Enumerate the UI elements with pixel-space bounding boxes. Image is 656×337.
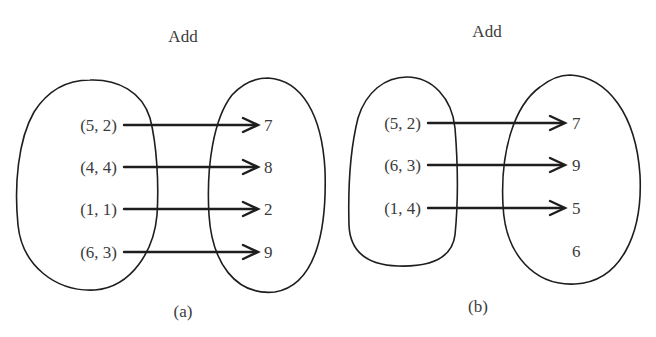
codomain-a-element-1: 7 xyxy=(264,117,273,134)
arrow-a-1 xyxy=(124,118,258,132)
codomain-a-element-3: 2 xyxy=(264,201,273,218)
domain-b-element-3: (1, 4) xyxy=(384,200,421,217)
domain-b-element-1: (5, 2) xyxy=(384,115,421,132)
arrow-b-1 xyxy=(428,116,565,130)
domain-a-element-1: (5, 2) xyxy=(80,117,117,134)
domain-a-element-4: (6, 3) xyxy=(80,244,117,261)
codomain-b-element-2: 9 xyxy=(572,157,581,174)
arrow-a-2 xyxy=(124,160,258,174)
domain-a-element-2: (4, 4) xyxy=(80,159,117,176)
arrow-b-2 xyxy=(428,158,565,172)
arrow-a-3 xyxy=(124,202,258,216)
codomain-b-element-3: 5 xyxy=(572,200,581,217)
codomain-b-element-4: 6 xyxy=(572,243,581,260)
diagram-b-title: Add xyxy=(472,23,501,40)
codomain-a-element-2: 8 xyxy=(264,159,273,176)
arrow-b-3 xyxy=(428,201,565,215)
diagram-a-title: Add xyxy=(168,28,197,45)
diagram-b-caption: (b) xyxy=(468,298,488,315)
domain-b-element-2: (6, 3) xyxy=(384,157,421,174)
codomain-a-element-4: 9 xyxy=(264,244,273,261)
domain-a-element-3: (1, 1) xyxy=(80,201,117,218)
diagram-a-caption: (a) xyxy=(174,303,193,320)
codomain-b-element-1: 7 xyxy=(572,115,581,132)
